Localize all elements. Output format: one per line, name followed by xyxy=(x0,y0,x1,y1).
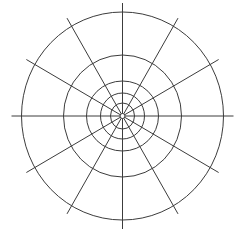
polar-grid-diagram xyxy=(0,0,235,236)
ring-5 xyxy=(120,114,125,119)
radial-spokes xyxy=(12,3,234,229)
